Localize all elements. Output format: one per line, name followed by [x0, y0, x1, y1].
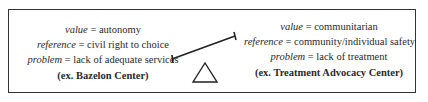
seesaw-right-endcap	[234, 32, 236, 40]
seesaw-beam	[172, 36, 235, 59]
seesaw-left-endcap	[172, 55, 173, 63]
seesaw-fulcrum-triangle	[193, 63, 217, 82]
seesaw-balance-icon	[0, 0, 428, 102]
